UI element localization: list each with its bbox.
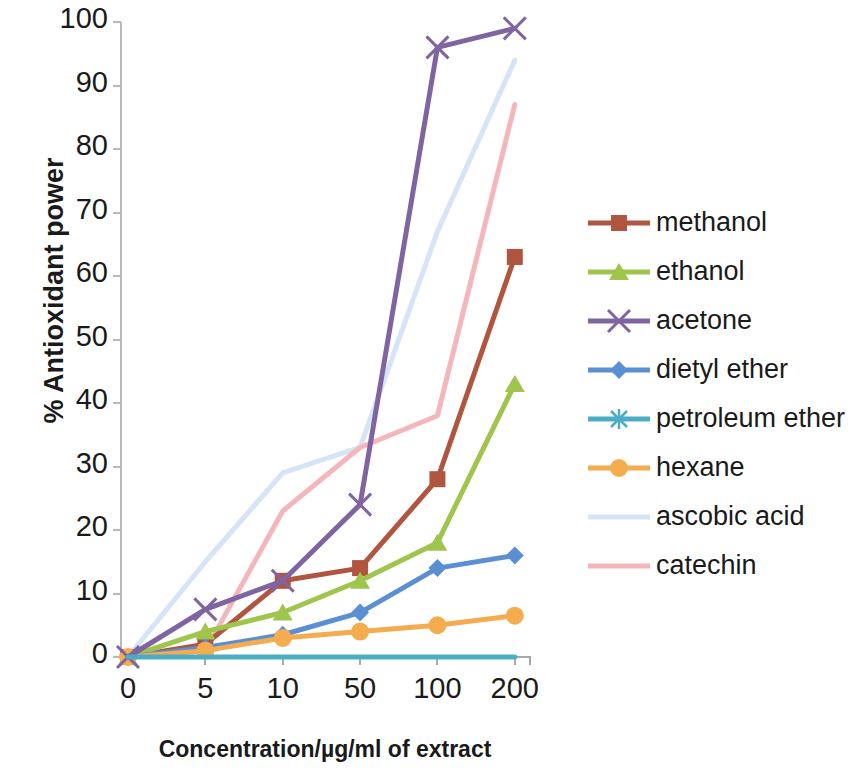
legend-swatch-icon	[588, 308, 650, 334]
legend-swatch-icon	[588, 259, 650, 285]
data-point-marker	[610, 459, 628, 477]
legend-swatch-icon	[588, 455, 650, 481]
chart-legend: methanolethanolacetonedietyl etherpetrol…	[588, 198, 866, 590]
data-point-marker	[429, 471, 445, 487]
legend-item-methanol[interactable]: methanol	[588, 198, 866, 247]
legend-label: petroleum ether	[656, 403, 845, 434]
legend-swatch-icon	[588, 210, 650, 236]
legend-item-ascobic-acid[interactable]: ascobic acid	[588, 492, 866, 541]
data-point-marker	[610, 361, 628, 379]
legend-label: ethanol	[656, 256, 745, 287]
legend-swatch-icon	[588, 357, 650, 383]
legend-item-petroleum-ether[interactable]: petroleum ether	[588, 394, 866, 443]
data-point-marker	[351, 623, 369, 641]
legend-item-dietyl-ether[interactable]: dietyl ether	[588, 345, 866, 394]
data-point-marker	[611, 215, 627, 231]
legend-swatch-icon	[588, 504, 650, 530]
data-point-marker	[194, 598, 216, 620]
legend-label: catechin	[656, 550, 757, 581]
data-point-marker	[427, 534, 447, 551]
data-point-marker	[506, 607, 524, 625]
data-point-marker	[506, 546, 524, 564]
legend-item-catechin[interactable]: catechin	[588, 541, 866, 590]
legend-item-ethanol[interactable]: ethanol	[588, 247, 866, 296]
data-point-marker	[505, 375, 525, 392]
data-point-marker	[274, 629, 292, 647]
legend-item-hexane[interactable]: hexane	[588, 443, 866, 492]
legend-label: methanol	[656, 207, 767, 238]
x-axis-title: Concentration/µg/ml of extract	[60, 736, 590, 763]
legend-item-acetone[interactable]: acetone	[588, 296, 866, 345]
legend-swatch-icon	[588, 553, 650, 579]
legend-label: dietyl ether	[656, 354, 788, 385]
data-point-marker	[609, 409, 629, 429]
legend-label: hexane	[656, 452, 745, 483]
chart-figure: % Antioxidant power 01020304050607080901…	[0, 0, 866, 775]
legend-swatch-icon	[588, 406, 650, 432]
legend-label: ascobic acid	[656, 501, 805, 532]
legend-label: acetone	[656, 305, 752, 336]
series-acetone	[117, 17, 526, 668]
data-point-marker	[507, 249, 523, 265]
series-ascobic-acid	[128, 60, 515, 657]
data-point-marker	[428, 616, 446, 634]
